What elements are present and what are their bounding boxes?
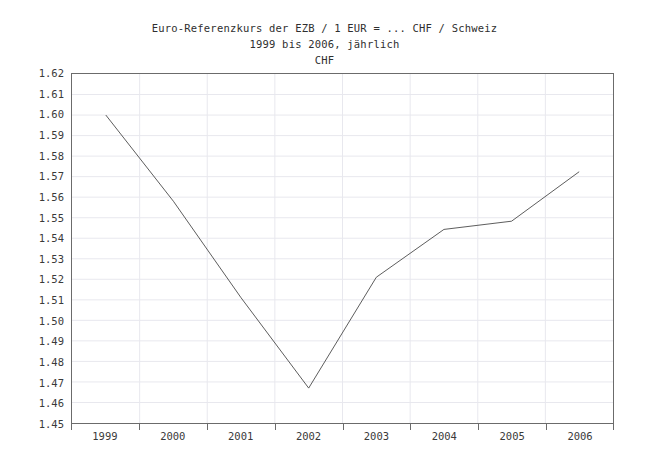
y-axis-tick-label: 1.53 <box>4 254 64 264</box>
x-axis-tick-label: 2006 <box>546 429 614 443</box>
y-axis-tick-label: 1.54 <box>4 233 64 243</box>
y-axis-tick-label: 1.50 <box>4 316 64 326</box>
x-axis-tick-label: 2002 <box>275 429 343 443</box>
chart-unit-label: CHF <box>0 52 649 68</box>
chart-title-block: Euro-Referenzkurs der EZB / 1 EUR = ... … <box>0 20 649 68</box>
chart-title: Euro-Referenzkurs der EZB / 1 EUR = ... … <box>0 20 649 36</box>
y-axis-tick-label: 1.58 <box>4 151 64 161</box>
y-axis-tick-label: 1.61 <box>4 89 64 99</box>
y-axis-tick-labels: 1.621.611.601.591.581.571.561.551.541.53… <box>0 73 64 424</box>
data-series-chf <box>72 74 613 423</box>
x-axis-tick-label: 2000 <box>139 429 207 443</box>
y-axis-tick-label: 1.47 <box>4 378 64 388</box>
y-axis-tick-label: 1.55 <box>4 213 64 223</box>
y-axis-tick-label: 1.48 <box>4 357 64 367</box>
chart-page: Euro-Referenzkurs der EZB / 1 EUR = ... … <box>0 0 649 466</box>
x-axis-tick-labels: 19992000200120022003200420052006 <box>71 429 614 449</box>
x-axis-tick-label: 2003 <box>343 429 411 443</box>
y-axis-tick-label: 1.57 <box>4 171 64 181</box>
x-axis-tick-label: 2001 <box>207 429 275 443</box>
y-axis-tick-label: 1.59 <box>4 130 64 140</box>
y-axis-tick-label: 1.45 <box>4 419 64 429</box>
x-axis-tick-label: 2005 <box>478 429 546 443</box>
y-axis-tick-label: 1.49 <box>4 336 64 346</box>
y-axis-tick-label: 1.56 <box>4 192 64 202</box>
y-axis-tick-label: 1.46 <box>4 398 64 408</box>
plot-area <box>71 73 614 424</box>
x-axis-tick-label: 2004 <box>410 429 478 443</box>
chart-subtitle: 1999 bis 2006, jährlich <box>0 36 649 52</box>
y-axis-tick-label: 1.62 <box>4 68 64 78</box>
x-axis-tick-label: 1999 <box>71 429 139 443</box>
series-line-chf <box>106 115 579 388</box>
y-axis-tick-label: 1.52 <box>4 274 64 284</box>
y-axis-tick-label: 1.60 <box>4 109 64 119</box>
y-axis-tick-label: 1.51 <box>4 295 64 305</box>
